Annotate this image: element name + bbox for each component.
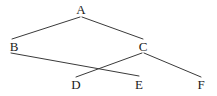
node-label-c: C — [139, 40, 148, 53]
graph-edge-a-b — [12, 17, 80, 39]
graph-edge-c-f — [144, 53, 201, 77]
edges-group — [11, 17, 201, 77]
graph-edge-c-d — [76, 53, 142, 77]
node-label-b: B — [10, 40, 19, 53]
graph-edge-a-c — [82, 17, 143, 39]
graph-edge-b-e — [11, 53, 139, 76]
node-label-d: D — [71, 78, 80, 91]
graph-edges-canvas — [0, 0, 217, 96]
node-label-a: A — [76, 3, 85, 16]
graph-diagram: ABCDEF — [0, 0, 217, 96]
node-label-e: E — [135, 78, 143, 91]
node-label-f: F — [197, 78, 204, 91]
